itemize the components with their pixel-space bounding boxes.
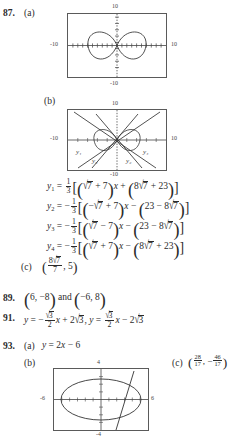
- answer-93a: y = 2x − 6: [42, 341, 80, 351]
- one-third-1: 13: [66, 178, 72, 195]
- frac-28-17: 2817: [194, 354, 202, 368]
- curve-label-y4: y₄: [143, 148, 149, 156]
- answer-key-page: 87. (a): [0, 0, 237, 442]
- answer-89: (6, −8) and (−6, 8): [24, 293, 106, 306]
- graph-87b-tick-bottom: -10: [110, 171, 118, 177]
- part-label-87c: (c): [21, 262, 32, 272]
- curve-label-y2: y₂: [126, 157, 132, 165]
- equation-y2: y2 = −13[(−√7 + 7)x − (23 − 8√7)]: [47, 198, 189, 216]
- graph-93b-tick-bottom: -4: [96, 431, 101, 437]
- frac-root3-over-2-a: √32: [45, 311, 55, 329]
- graph-87b: [67, 109, 167, 171]
- graph-87a-canvas: [68, 14, 166, 77]
- equation-y4: y4 = −13[(√7 + 7)x − (8√7 + 23)]: [47, 238, 184, 256]
- graph-93b: [53, 368, 149, 431]
- eq3-index: 3: [51, 225, 54, 232]
- eq1-index: 1: [51, 185, 54, 192]
- graph-87a-tick-right: 10: [171, 41, 177, 47]
- one-third-3: 13: [71, 218, 77, 235]
- graph-87b-tick-right: 10: [171, 135, 177, 141]
- part-label-93a: (a): [24, 341, 35, 351]
- frac-46-17: 4617: [213, 354, 221, 368]
- graph-93b-tick-left: -6: [40, 395, 45, 401]
- one-third-4: 13: [71, 238, 77, 255]
- one-third-2: 13: [71, 198, 77, 215]
- graph-87a: [67, 13, 167, 78]
- exercise-number-91: 91.: [3, 313, 15, 323]
- answer-91: y = −√32x + 2√3, y = √32x − 2√3: [24, 311, 144, 329]
- line-curve: [116, 371, 134, 430]
- graph-93b-canvas: [54, 369, 148, 430]
- exercise-number-89: 89.: [3, 293, 15, 303]
- eq4-index: 4: [51, 245, 54, 252]
- answer-87c: (8√77, 5): [42, 256, 77, 275]
- graph-93b-tick-top: 4: [97, 359, 100, 365]
- curve-label-y3: y₃: [92, 157, 98, 165]
- part-label-87b: (b): [44, 96, 55, 106]
- frac-root3-over-2-b: √32: [105, 311, 115, 329]
- exercise-number-93: 93.: [3, 341, 15, 351]
- graph-87b-canvas: [68, 110, 166, 170]
- graph-87b-tick-top: 10: [112, 100, 118, 106]
- line-y2: [96, 114, 142, 168]
- exercise-number-87: 87.: [3, 8, 15, 18]
- answer-93c: (2817, −4617): [188, 354, 227, 369]
- graph-87a-tick-top: 10: [112, 3, 118, 9]
- equation-y1: y1 = 13[(√7 + 7)x + (8√7 + 23)]: [47, 178, 179, 196]
- part-label-87a: (a): [24, 8, 35, 18]
- equation-y3: y3 = −13[(√7 − 7)x − (23 − 8√7)]: [47, 218, 184, 236]
- graph-87a-tick-left: -10: [50, 41, 58, 47]
- part-label-93c: (c): [172, 358, 183, 368]
- curve-label-y1: y₁: [76, 148, 82, 156]
- part-label-93b: (b): [24, 358, 35, 368]
- graph-87a-tick-bottom: -10: [110, 80, 118, 86]
- graph-93b-tick-right: 6: [151, 395, 154, 401]
- eq2-index: 2: [51, 205, 54, 212]
- frac-8root7-over-7: 8√77: [48, 256, 62, 275]
- graph-87b-tick-left: -10: [50, 135, 58, 141]
